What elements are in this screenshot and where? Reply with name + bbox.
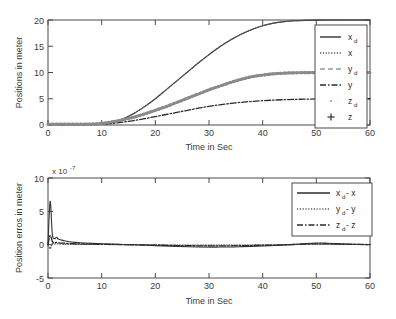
legend-sublabel: d xyxy=(354,102,357,108)
legend-suffix: - z xyxy=(346,220,355,230)
legend-label: z xyxy=(348,112,352,122)
ytick-label: 0 xyxy=(39,240,44,250)
errors-x-tick-labels: 0 10 20 30 40 50 60 xyxy=(45,281,375,291)
ytick-label: 5 xyxy=(39,94,44,104)
figure-container: 20 15 10 5 0 0 10 20 30 40 50 60 Time in… xyxy=(0,0,396,319)
legend-sublabel: d xyxy=(342,226,345,232)
ytick-label: 0 xyxy=(39,120,44,130)
xtick-label: 0 xyxy=(45,128,50,138)
series-z-d-z xyxy=(48,235,370,246)
positions-x-tick-labels: 0 10 20 30 40 50 60 xyxy=(45,128,375,138)
positions-chart-panel: 20 15 10 5 0 0 10 20 30 40 50 60 Time in… xyxy=(0,0,396,160)
legend-suffix: - x xyxy=(346,188,356,198)
legend-suffix: - y xyxy=(346,204,356,214)
legend-sublabel: d xyxy=(342,194,345,200)
xtick-label: 20 xyxy=(150,128,160,138)
ytick-label: 10 xyxy=(34,174,44,184)
xtick-label: 30 xyxy=(204,128,214,138)
errors-xaxis-title: Time in Sec xyxy=(185,296,233,306)
ytick-label: -5 xyxy=(36,274,44,284)
xtick-label: 60 xyxy=(365,128,375,138)
positions-yaxis-title: Positions in meter xyxy=(14,37,24,109)
errors-chart-svg: x 10 -7 xyxy=(0,160,396,319)
xtick-label: 40 xyxy=(258,281,268,291)
errors-y-tick-labels: 10 5 0 -5 xyxy=(34,174,44,284)
errors-chart-panel: x 10 -7 xyxy=(0,160,396,319)
legend-label: z xyxy=(348,96,352,106)
xtick-label: 50 xyxy=(311,128,321,138)
errors-exponent-label: x 10 -7 xyxy=(52,165,76,176)
exponent-base: x 10 xyxy=(52,167,68,176)
positions-y-tick-labels: 20 15 10 5 0 xyxy=(34,16,44,131)
positions-xaxis-title: Time in Sec xyxy=(185,142,233,152)
xtick-label: 10 xyxy=(97,281,107,291)
legend-sublabel: d xyxy=(354,38,357,44)
dot-marker-icon xyxy=(330,100,332,102)
xtick-label: 50 xyxy=(311,281,321,291)
ytick-label: 15 xyxy=(34,42,44,52)
errors-yaxis-title: Position erros in meter xyxy=(14,183,24,273)
positions-chart-svg: 20 15 10 5 0 0 10 20 30 40 50 60 Time in… xyxy=(0,0,396,160)
exponent-superscript: -7 xyxy=(70,165,76,171)
positions-legend: x d x y d y z xyxy=(315,25,367,128)
ytick-label: 5 xyxy=(39,207,44,217)
legend-label: z xyxy=(336,220,340,230)
xtick-label: 40 xyxy=(258,128,268,138)
ytick-label: 10 xyxy=(34,68,44,78)
xtick-label: 20 xyxy=(150,281,160,291)
errors-legend: x d - x y d - y z d - z xyxy=(292,183,372,236)
xtick-label: 0 xyxy=(45,281,50,291)
ytick-label: 20 xyxy=(34,16,44,26)
legend-sublabel: d xyxy=(342,210,345,216)
xtick-label: 60 xyxy=(365,281,375,291)
xtick-label: 30 xyxy=(204,281,214,291)
legend-sublabel: d xyxy=(354,70,357,76)
xtick-label: 10 xyxy=(97,128,107,138)
